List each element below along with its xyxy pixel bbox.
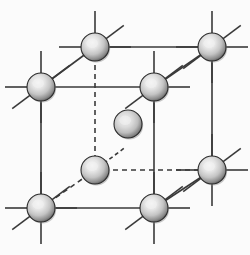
atom-highlight-back-bottom-left — [86, 162, 98, 172]
atom-highlight-front-bottom-left — [32, 200, 44, 210]
atom-highlight-back-top-right — [203, 39, 215, 49]
atom-highlight-front-top-left — [32, 79, 44, 89]
crystal-lattice-figure: Front top left corner atomFront top righ… — [0, 0, 250, 255]
atom-highlight-body-center — [119, 116, 131, 126]
atom-highlight-front-bottom-right — [145, 200, 157, 210]
atom-highlight-front-top-right — [145, 79, 157, 89]
bcc-unit-cell-diagram: Front top left corner atomFront top righ… — [0, 0, 250, 255]
atom-highlight-back-bottom-right — [203, 162, 215, 172]
atom-highlight-back-top-left — [86, 39, 98, 49]
